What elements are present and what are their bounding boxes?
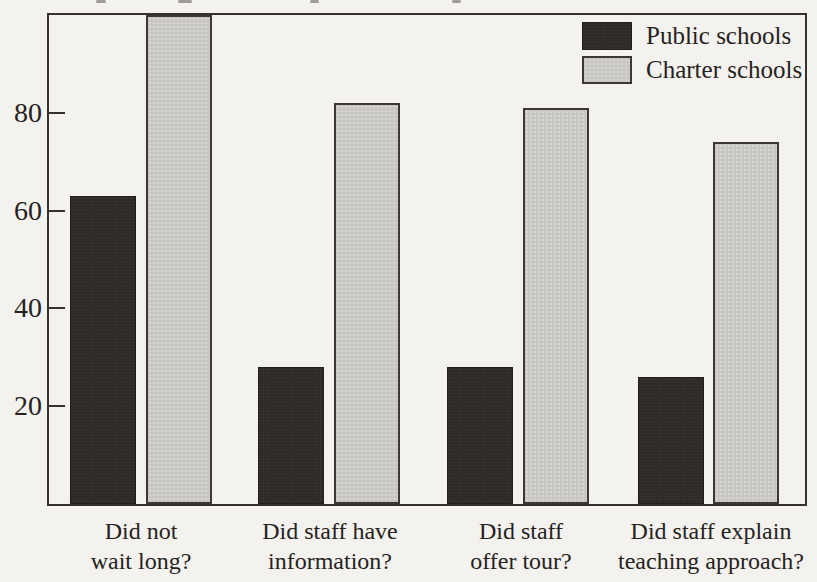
bar-charter-1	[146, 15, 212, 504]
legend-label-public-schools: Public schools	[646, 22, 791, 50]
legend: Public schools Charter schools	[582, 22, 802, 90]
y-tick-label-60: 60	[0, 194, 42, 228]
bar-public-4	[638, 377, 704, 504]
bar-charter-4	[713, 142, 779, 504]
x-category-label-3: Did staffoffer tour?	[470, 516, 572, 576]
legend-item-public-schools: Public schools	[582, 22, 802, 50]
bar-charter-2	[334, 103, 400, 504]
y-tick-label-40: 40	[0, 291, 42, 325]
x-category-label-2: Did staff haveinformation?	[262, 516, 398, 576]
bar-public-1	[70, 196, 136, 504]
cropped-text-remnant	[452, 0, 461, 3]
y-tick-label-20: 20	[0, 389, 42, 423]
bar-charter-3	[523, 108, 589, 504]
legend-label-charter-schools: Charter schools	[646, 56, 802, 84]
public-schools-swatch	[582, 22, 632, 50]
legend-item-charter-schools: Charter schools	[582, 56, 802, 84]
y-tick-label-80: 80	[0, 96, 42, 130]
x-category-label-1: Did notwait long?	[91, 516, 192, 576]
cropped-text-remnant	[96, 0, 106, 3]
charter-schools-swatch	[582, 56, 632, 84]
y-tick-20	[49, 405, 65, 407]
cropped-text-remnant	[310, 0, 319, 3]
y-tick-60	[49, 210, 65, 212]
bar-public-2	[258, 367, 324, 504]
x-category-label-4: Did staff explainteaching approach?	[618, 516, 804, 576]
y-tick-40	[49, 307, 65, 309]
bar-public-3	[447, 367, 513, 504]
y-tick-80	[49, 112, 65, 114]
bar-chart-figure: 20406080 Did notwait long?Did staff have…	[0, 0, 817, 582]
cropped-text-remnant	[178, 0, 192, 3]
